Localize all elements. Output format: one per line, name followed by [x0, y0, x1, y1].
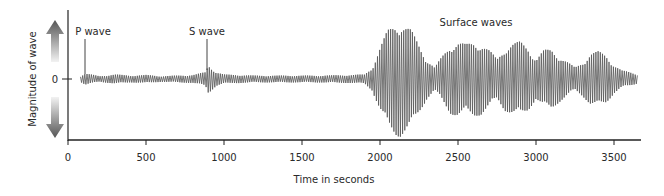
x-ticks: 0500100015002000250030003500	[65, 140, 627, 163]
y-tick-label-0: 0	[52, 74, 58, 85]
x-tick-label: 2500	[445, 152, 470, 163]
x-tick-label: 500	[136, 152, 155, 163]
x-tick-label: 1000	[211, 152, 236, 163]
x-tick-label: 1500	[289, 152, 314, 163]
seismogram-waveform	[81, 29, 638, 137]
annotation-label: Surface waves	[440, 17, 513, 28]
seismogram-chart: Magnitude of wave 0 05001000150020002500…	[0, 0, 664, 196]
x-tick-label: 2000	[367, 152, 392, 163]
annotation-label: P wave	[75, 26, 111, 37]
x-tick-label: 0	[65, 152, 71, 163]
y-axis-label: Magnitude of wave	[27, 31, 38, 126]
down-arrow-icon	[46, 97, 64, 138]
annotation-label: S wave	[189, 26, 225, 37]
x-tick-label: 3500	[601, 152, 626, 163]
x-tick-label: 3000	[523, 152, 548, 163]
x-axis-label: Time in seconds	[293, 174, 375, 185]
up-arrow-icon	[46, 20, 64, 62]
